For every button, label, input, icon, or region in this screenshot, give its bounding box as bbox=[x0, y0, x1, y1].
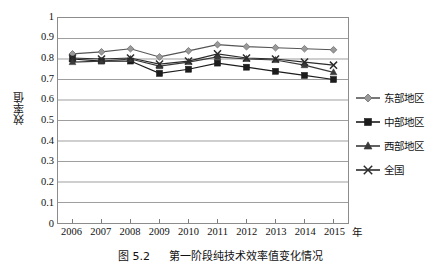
y-axis-tick: 0.6 bbox=[28, 94, 54, 105]
x-axis-tick-labels: 2006200720082009201020112012201320142015 bbox=[57, 226, 349, 242]
triangle-marker-icon bbox=[355, 139, 381, 153]
figure-chart: 效率值 10.90.80.70.60.50.40.30.20.10 200620… bbox=[0, 0, 441, 273]
y-axis-tick: 0.7 bbox=[28, 74, 54, 85]
plot-area bbox=[57, 17, 349, 224]
legend-label: 中部地区 bbox=[381, 116, 424, 128]
cross-marker-icon bbox=[355, 163, 381, 177]
square-marker-icon bbox=[186, 66, 192, 72]
y-axis-tick: 0.1 bbox=[28, 198, 54, 209]
diamond-marker-icon bbox=[243, 43, 250, 50]
diamond-marker-icon bbox=[330, 46, 337, 53]
y-axis-tick: 0.3 bbox=[28, 156, 54, 167]
chart-canvas bbox=[58, 18, 348, 223]
series-line bbox=[73, 45, 334, 57]
y-axis-tick: 0.5 bbox=[28, 115, 54, 126]
x-axis-tick-marks bbox=[73, 219, 334, 223]
legend-label: 西部地区 bbox=[381, 140, 424, 152]
y-axis-tick: 0 bbox=[28, 219, 54, 230]
legend-item[interactable]: 全国 bbox=[355, 160, 441, 180]
square-marker-icon bbox=[215, 60, 221, 66]
legend-item[interactable]: 西部地区 bbox=[355, 136, 441, 156]
legend-item[interactable]: 东部地区 bbox=[355, 88, 441, 108]
square-marker-icon bbox=[273, 68, 279, 74]
diamond-marker-icon bbox=[185, 47, 192, 54]
y-axis-tick: 0.4 bbox=[28, 136, 54, 147]
y-axis-tick: 0.9 bbox=[28, 32, 54, 43]
diamond-marker-icon bbox=[355, 91, 381, 105]
square-marker-icon bbox=[355, 115, 381, 129]
y-axis-tick: 0.8 bbox=[28, 53, 54, 64]
caption-text: 第一阶段纯技术效率值变化情况 bbox=[169, 250, 323, 263]
diamond-marker-icon bbox=[214, 41, 221, 48]
legend-item[interactable]: 中部地区 bbox=[355, 112, 441, 132]
legend-label: 全国 bbox=[381, 164, 404, 176]
x-axis-tick: 2015 bbox=[317, 226, 351, 238]
diamond-marker-icon bbox=[98, 48, 105, 55]
square-marker-icon bbox=[244, 64, 250, 70]
square-marker-icon bbox=[157, 70, 163, 76]
square-marker-icon bbox=[302, 72, 308, 78]
y-axis-tick: 0.2 bbox=[28, 177, 54, 188]
legend-label: 东部地区 bbox=[381, 92, 424, 104]
diamond-marker-icon bbox=[364, 94, 372, 102]
square-marker-icon bbox=[364, 118, 371, 125]
caption-figure-number: 图 5.2 bbox=[118, 250, 150, 263]
square-marker-icon bbox=[331, 77, 337, 83]
figure-caption: 图 5.2 第一阶段纯技术效率值变化情况 bbox=[0, 250, 441, 264]
series-3 bbox=[69, 53, 337, 74]
diamond-marker-icon bbox=[127, 45, 134, 52]
chart-legend: 东部地区中部地区西部地区全国 bbox=[355, 88, 441, 184]
y-axis-tick: 1 bbox=[28, 12, 54, 23]
y-axis-tick-labels: 10.90.80.70.60.50.40.30.20.10 bbox=[26, 0, 54, 273]
x-axis-unit-label: 年 bbox=[352, 226, 362, 238]
diamond-marker-icon bbox=[301, 45, 308, 52]
diamond-marker-icon bbox=[272, 44, 279, 51]
series-line bbox=[73, 59, 334, 80]
